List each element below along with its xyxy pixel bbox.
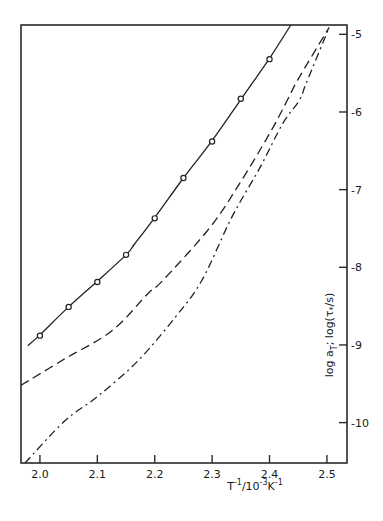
y-tick-label: -10 bbox=[351, 417, 369, 430]
x-tick-label: 2.3 bbox=[203, 468, 221, 481]
data-point-marker bbox=[181, 175, 186, 180]
data-point-marker bbox=[210, 139, 215, 144]
x-tick-label: 2.5 bbox=[318, 468, 336, 481]
dash-dot-curve bbox=[25, 27, 329, 463]
y-axis-label: log aT; log(τ*/s) bbox=[323, 293, 339, 378]
data-point-marker bbox=[66, 304, 71, 309]
data-point-marker bbox=[152, 216, 157, 221]
x-axis-ticks: 2.02.12.22.32.42.5 bbox=[31, 455, 335, 481]
chart: 2.02.12.22.32.42.5 -5-6-7-8-9-10 T-1/10-… bbox=[0, 0, 383, 521]
plot-curves bbox=[21, 25, 329, 463]
x-axis-label: T-1/10-3K-1 bbox=[226, 478, 283, 493]
data-point-marker bbox=[238, 96, 243, 101]
y-tick-label: -8 bbox=[351, 261, 362, 274]
data-point-marker bbox=[267, 57, 272, 62]
y-axis-ticks: -5-6-7-8-9-10 bbox=[339, 28, 369, 429]
y-tick-label: -9 bbox=[351, 339, 362, 352]
data-markers bbox=[37, 57, 272, 339]
dashed-curve bbox=[21, 27, 329, 385]
data-point-marker bbox=[95, 279, 100, 284]
y-tick-label: -6 bbox=[351, 106, 362, 119]
data-point-marker bbox=[123, 252, 128, 257]
y-tick-label: -5 bbox=[351, 28, 362, 41]
x-tick-label: 2.2 bbox=[146, 468, 164, 481]
data-point-marker bbox=[37, 333, 42, 338]
solid-curve bbox=[28, 25, 291, 346]
x-tick-label: 2.0 bbox=[31, 468, 49, 481]
plot-frame bbox=[21, 25, 347, 463]
x-tick-label: 2.1 bbox=[89, 468, 107, 481]
y-tick-label: -7 bbox=[351, 184, 362, 197]
